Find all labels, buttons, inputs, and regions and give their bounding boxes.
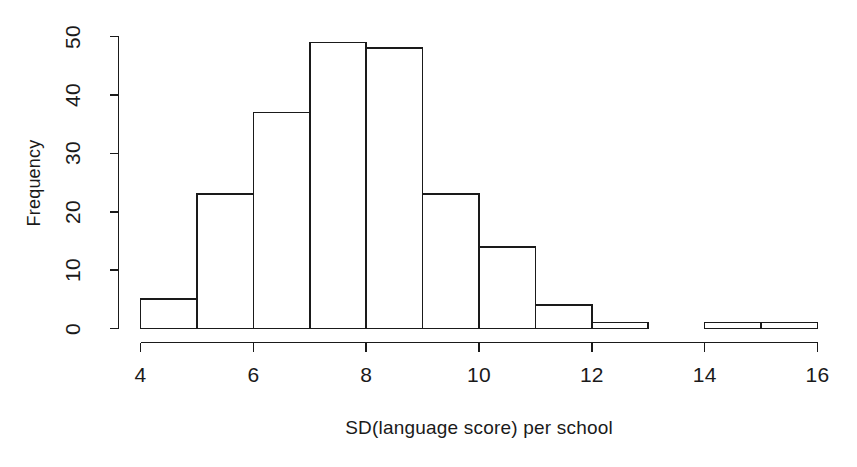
y-tick-label: 40 [60,65,86,125]
x-axis [141,343,818,352]
y-tick-label: 50 [60,7,86,67]
y-tick-label: 30 [60,123,86,183]
histogram-bar [535,305,591,328]
histogram-plot-area [0,0,857,467]
histogram-bar [592,323,648,329]
histogram-bars [141,42,818,328]
histogram-bar [141,299,197,328]
histogram-bar [423,194,479,328]
histogram-bar [761,323,817,329]
y-axis [110,37,119,329]
histogram-bar [366,48,422,328]
histogram-bar [253,112,309,328]
histogram-bar [479,247,535,329]
x-axis-title: SD(language score) per school [279,417,679,439]
y-tick-label: 20 [60,182,86,242]
x-tick-label: 6 [223,363,283,387]
x-tick-label: 14 [675,363,735,387]
x-tick-label: 10 [449,363,509,387]
histogram-figure: 01020304050 46810121416 Frequency SD(lan… [0,0,857,467]
x-tick-label: 8 [336,363,396,387]
y-tick-label: 0 [60,299,86,359]
histogram-bar [705,323,761,329]
x-tick-label: 12 [562,363,622,387]
x-tick-label: 4 [111,363,171,387]
y-axis-title: Frequency [22,93,46,273]
x-tick-label: 16 [788,363,848,387]
histogram-bar [310,42,366,328]
y-tick-label: 10 [60,240,86,300]
histogram-bar [197,194,253,328]
